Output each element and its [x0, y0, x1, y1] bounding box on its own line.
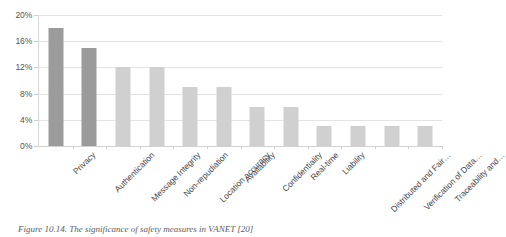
bar-slot [39, 15, 73, 146]
bar-slot [241, 15, 275, 146]
bar-slot [140, 15, 174, 146]
x-axis-category-label: Privacy [71, 150, 97, 176]
x-axis-tick-mark [207, 146, 208, 149]
x-axis: PrivacyAuthenticationMessage IntegrityNo… [0, 150, 454, 220]
x-axis-tick-mark [274, 146, 275, 149]
bar-slot [73, 15, 107, 146]
x-axis-tick-mark [140, 146, 141, 149]
y-axis-tick-mark [34, 146, 38, 147]
bar-slot [375, 15, 409, 146]
bar-chart: 20%16%12%8%4%0% [0, 0, 454, 150]
bar[interactable] [48, 28, 63, 146]
x-axis-tick-mark [442, 146, 443, 149]
bar-slot [173, 15, 207, 146]
y-axis-tick-label: 4% [0, 116, 32, 125]
x-axis-tick-mark [106, 146, 107, 149]
x-axis-category-label: Authentication [112, 150, 156, 194]
x-axis-category-label: Liability [340, 150, 366, 176]
bar-slot [308, 15, 342, 146]
plot-bars [39, 15, 442, 146]
x-axis-tick-mark [341, 146, 342, 149]
bar[interactable] [82, 48, 97, 146]
bar-slot [341, 15, 375, 146]
bar[interactable] [283, 107, 298, 146]
figure-caption: Figure 10.14. The significance of safety… [18, 224, 438, 235]
bar[interactable] [183, 87, 198, 146]
bar[interactable] [384, 126, 399, 146]
bar[interactable] [216, 87, 231, 146]
bar-slot [274, 15, 308, 146]
y-axis-tick-label: 12% [0, 63, 32, 72]
bar[interactable] [418, 126, 433, 146]
x-axis-tick-mark [375, 146, 376, 149]
bar-slot [408, 15, 442, 146]
bar[interactable] [351, 126, 366, 146]
x-axis-tick-mark [308, 146, 309, 149]
x-axis-tick-mark [408, 146, 409, 149]
y-axis-tick-label: 20% [0, 11, 32, 20]
x-axis-tick-mark [241, 146, 242, 149]
bar-slot [207, 15, 241, 146]
x-axis-tick-mark [73, 146, 74, 149]
y-axis: 20%16%12%8%4%0% [0, 0, 35, 150]
bar[interactable] [115, 67, 130, 146]
bar[interactable] [250, 107, 265, 146]
bar[interactable] [149, 67, 164, 146]
y-axis-tick-label: 8% [0, 90, 32, 99]
y-axis-tick-label: 16% [0, 37, 32, 46]
bar-slot [106, 15, 140, 146]
x-axis-tick-mark [173, 146, 174, 149]
bar[interactable] [317, 126, 332, 146]
